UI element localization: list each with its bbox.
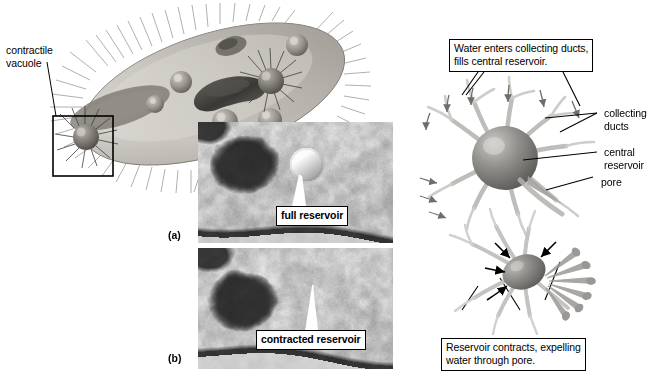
water-enters-caption: Water enters collecting ducts, fills cen… [449, 39, 593, 72]
reservoir-contracts-caption-line1: Reservoir contracts, expelling [446, 341, 581, 353]
pore-label: pore [601, 176, 622, 189]
expelled-water-droplets [545, 247, 595, 321]
reservoir-contracts-caption: Reservoir contracts, expelling water thr… [441, 338, 586, 371]
water-enters-caption-line1: Water enters collecting ducts, [454, 42, 588, 54]
collecting-ducts-label: collecting ducts [604, 107, 647, 132]
central-reservoir-label: central reservoir [604, 146, 644, 171]
reservoir-contracts-caption-line2: water through pore. [446, 354, 535, 366]
figure-canvas: contractile vacuole full reservoir (a) c… [0, 0, 658, 379]
water-enters-caption-line2: fills central reservoir. [454, 55, 547, 67]
